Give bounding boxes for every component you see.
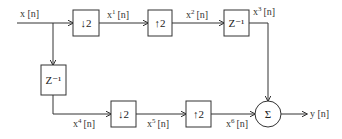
input-label: x [n] xyxy=(20,8,39,19)
signal-label-x6: x6[n] xyxy=(226,117,248,129)
output-label: y [n] xyxy=(310,108,329,119)
wire-x4 xyxy=(53,95,111,114)
upsample-label: ↑2 xyxy=(155,17,166,29)
signal-label-x5: x5[n] xyxy=(147,117,169,129)
signal-label-x3: x3[n] xyxy=(253,5,275,17)
downsampler-block-1: ↓2 xyxy=(73,10,99,36)
signal-label-x2: x2[n] xyxy=(186,8,208,20)
delay-label: Z⁻¹ xyxy=(229,17,245,29)
sigma-icon: Σ xyxy=(265,108,271,120)
delay-label: Z⁻¹ xyxy=(46,74,62,86)
upsampler-block-2: ↑2 xyxy=(186,101,211,127)
signal-label-x4: x4[n] xyxy=(73,117,95,129)
delay-block-1: Z⁻¹ xyxy=(224,10,249,36)
wire-x3 xyxy=(249,23,268,101)
delay-block-2: Z⁻¹ xyxy=(41,65,66,95)
signal-label-x1: x1[n] xyxy=(107,8,129,20)
block-diagram: x [n] ↓2 ↑2 Z⁻¹ Z⁻¹ ↓2 ↑2 Σ y [n] xyxy=(0,0,342,139)
downsampler-block-2: ↓2 xyxy=(111,101,136,127)
downsample-label: ↓2 xyxy=(81,17,92,29)
downsample-label: ↓2 xyxy=(118,108,129,120)
summing-junction: Σ xyxy=(255,101,281,127)
upsampler-block-1: ↑2 xyxy=(148,10,172,36)
upsample-label: ↑2 xyxy=(193,108,204,120)
